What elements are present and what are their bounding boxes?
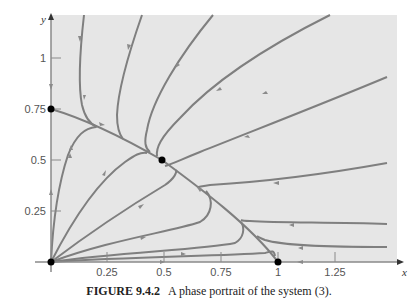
- y-tick-label: 0.75: [25, 103, 46, 115]
- equilibrium-saddle: [159, 157, 166, 164]
- y-tick-label: 0.5: [31, 154, 46, 166]
- x-axis-arrow-icon: [397, 259, 404, 265]
- caption-text: A phase portrait of the system (3).: [168, 284, 332, 298]
- x-tick-label: 0.25: [96, 266, 117, 278]
- equilibrium-x-axis: [275, 259, 282, 266]
- figure-label: FIGURE 9.4.2: [86, 284, 160, 298]
- phase-portrait-chart: 0.25 0.5 0.75 1 1.25 0.25 0.5 0.75 1 x y: [0, 0, 418, 284]
- x-tick-label: 1.25: [324, 266, 345, 278]
- figure-caption: FIGURE 9.4.2A phase portrait of the syst…: [0, 284, 418, 299]
- equilibrium-origin: [48, 259, 55, 266]
- x-tick-label: 1: [275, 266, 281, 278]
- y-tick-label: 0.25: [25, 205, 46, 217]
- y-tick-label: 1: [40, 52, 46, 64]
- x-tick-label: 0.75: [210, 266, 231, 278]
- y-axis-label: y: [40, 13, 46, 25]
- equilibrium-y-axis: [48, 106, 55, 113]
- x-tick-label: 0.5: [156, 266, 171, 278]
- x-axis-label: x: [401, 266, 407, 278]
